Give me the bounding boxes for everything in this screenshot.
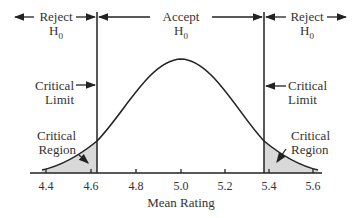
right-critical-limit-label: Critical Limit [288, 79, 334, 107]
x-axis-label: Mean Rating [141, 196, 221, 210]
tick-label: 5.0 [166, 179, 196, 194]
left-reject-label: Reject H0 [36, 10, 76, 43]
left-critical-limit-label: Critical Limit [28, 79, 74, 107]
right-reject-label: Reject H0 [287, 10, 327, 43]
tick-label: 4.6 [76, 179, 106, 194]
tick-label: 5.6 [298, 179, 328, 194]
tick-label: 4.8 [121, 179, 151, 194]
tick-label: 5.4 [254, 179, 284, 194]
tick-label: 5.2 [210, 179, 240, 194]
tick-label: 4.4 [31, 179, 61, 194]
right-critical-region-label: Critical Region [291, 129, 337, 157]
accept-label: Accept H0 [152, 10, 210, 43]
left-critical-region-label: Critical Region [30, 129, 76, 157]
